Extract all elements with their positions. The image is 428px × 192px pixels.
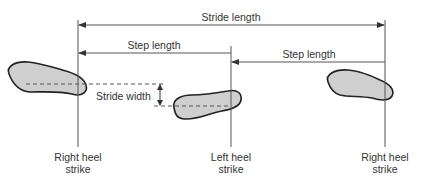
event-label-right-heel-strike-1: Right heel strike (54, 151, 101, 175)
event-label-line1: Left heel (211, 151, 251, 163)
gait-diagram: Stride length Step length Step length St… (0, 0, 428, 192)
right-footprint-1 (8, 62, 86, 95)
event-label-right-heel-strike-2: Right heel strike (361, 151, 408, 175)
event-label-left-heel-strike: Left heel strike (211, 151, 251, 175)
event-label-line2: strike (65, 163, 90, 175)
stride-width-label: Stride width (96, 90, 151, 102)
step-length-left-label: Step length (127, 39, 180, 51)
event-label-line2: strike (218, 163, 243, 175)
event-label-line1: Right heel (54, 151, 101, 163)
stride-length-label: Stride length (202, 11, 261, 23)
right-footprint-2 (327, 70, 392, 100)
event-label-line2: strike (372, 163, 397, 175)
event-label-line1: Right heel (361, 151, 408, 163)
step-length-right-label: Step length (282, 48, 335, 60)
